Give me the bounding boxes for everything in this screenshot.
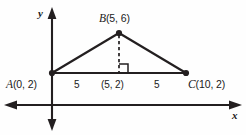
vertex-label-a-coords: (0, 2) [13,78,37,90]
segment-length-label-left: 5 [74,80,79,90]
vertex-label-c: C(10, 2) [188,79,225,91]
right-angle-marker [119,64,128,73]
x-axis-arrow-left [4,101,17,110]
y-axis-arrow-up [48,7,57,19]
vertex-label-b-letter: B [99,12,106,24]
coordinate-plane-figure: A(0, 2) B(5, 6) C(10, 2) 5 (5, 2) 5 y x [0,0,246,135]
vertex-label-b: B(5, 6) [99,13,130,25]
y-axis [48,7,57,131]
y-axis-label: y [38,8,43,19]
vertex-label-a: A(0, 2) [6,79,37,91]
vertex-label-b-coords: (5, 6) [106,12,130,24]
vertex-dot-b [116,30,122,36]
vertex-label-a-letter: A [6,78,13,90]
x-axis-label: x [232,110,237,121]
vertex-label-c-coords: (10, 2) [196,78,226,90]
vertex-dot-c [183,70,189,76]
vertex-label-c-letter: C [188,78,196,90]
y-axis-arrow-down [48,119,57,131]
vertex-dot-a [49,70,55,76]
triangle-side-bc [119,33,186,73]
x-axis [4,101,242,110]
midpoint-coords-label: (5, 2) [101,80,124,90]
triangle-side-ab [52,33,119,73]
segment-length-label-right: 5 [154,80,159,90]
